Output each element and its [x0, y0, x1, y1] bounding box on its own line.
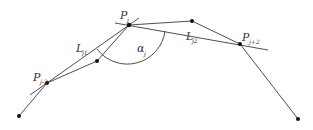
vertex-point — [17, 114, 21, 118]
label-lj1-sub: j1 — [80, 49, 88, 57]
angle-arc-alpha — [97, 31, 165, 64]
diagram-canvas: P j P j-2 P j+2 L j1 L j2 α j — [0, 0, 313, 130]
polyline-path — [19, 21, 298, 119]
vertex-point-pj — [127, 23, 131, 27]
vertex-point — [296, 117, 300, 121]
label-lj2-sub: j2 — [190, 37, 198, 45]
vertex-point — [190, 19, 194, 23]
polyline-angle-diagram: P j P j-2 P j+2 L j1 L j2 α j — [0, 0, 313, 130]
label-pj-2-sub: j-2 — [38, 78, 48, 86]
vertex-point — [95, 59, 99, 63]
label-pj+2-sub: j+2 — [247, 38, 260, 46]
